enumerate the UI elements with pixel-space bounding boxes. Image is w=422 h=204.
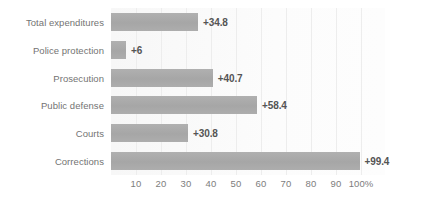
- x-tick-label: 20: [156, 178, 167, 189]
- bar-rows: Total expenditures+34.8Police protection…: [0, 8, 422, 175]
- bar-row: Total expenditures+34.8: [0, 8, 422, 36]
- bar-row: Corrections+99.4: [0, 147, 422, 175]
- x-tick-label: 40: [206, 178, 217, 189]
- bar-value-label: +99.4: [365, 156, 390, 167]
- x-tick-label: 50: [231, 178, 242, 189]
- x-tick-label: 80: [306, 178, 317, 189]
- bar-row: Courts+30.8: [0, 119, 422, 147]
- bar: [111, 96, 257, 114]
- x-axis: 102030405060708090100%: [0, 178, 422, 194]
- x-tick-label: 70: [281, 178, 292, 189]
- x-tick-label: 100%: [349, 178, 374, 189]
- bar-value-label: +6: [131, 44, 142, 55]
- bar-row: Prosecution+40.7: [0, 64, 422, 92]
- x-tick-label: 10: [131, 178, 142, 189]
- category-label: Total expenditures: [0, 16, 104, 27]
- bar-chart: Total expenditures+34.8Police protection…: [0, 0, 422, 204]
- x-tick-label: 30: [181, 178, 192, 189]
- bar-value-label: +40.7: [218, 72, 243, 83]
- category-label: Courts: [0, 128, 104, 139]
- category-label: Prosecution: [0, 72, 104, 83]
- bar: [111, 13, 198, 31]
- category-label: Public defense: [0, 100, 104, 111]
- bar: [111, 152, 360, 170]
- category-label: Police protection: [0, 44, 104, 55]
- bar-row: Police protection+6: [0, 36, 422, 64]
- x-tick-label: 90: [331, 178, 342, 189]
- bar-value-label: +34.8: [203, 16, 228, 27]
- bar: [111, 41, 126, 59]
- x-tick-label: 60: [256, 178, 267, 189]
- category-label: Corrections: [0, 156, 104, 167]
- bar: [111, 69, 213, 87]
- bar: [111, 124, 188, 142]
- bar-row: Public defense+58.4: [0, 92, 422, 120]
- bar-value-label: +58.4: [262, 100, 287, 111]
- bar-value-label: +30.8: [193, 128, 218, 139]
